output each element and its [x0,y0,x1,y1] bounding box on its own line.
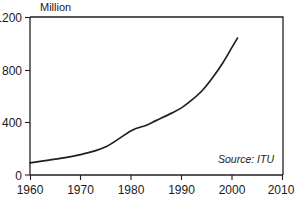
y-tick-label-800: 800 [2,64,22,78]
chart-figure: Million 1200 800 400 0 1960 1970 1980 19… [0,0,295,204]
y-tick-label-0: 0 [15,169,22,183]
x-tick-label-1990: 1990 [168,183,195,197]
x-tick-label-2010: 2010 [268,183,295,197]
x-tick-label-1970: 1970 [67,183,94,197]
source-annotation: Source: ITU [218,153,274,165]
y-tick-label-400: 400 [2,116,22,130]
chart-canvas: Million 1200 800 400 0 1960 1970 1980 19… [0,0,295,204]
x-tick-label-2000: 2000 [219,183,246,197]
y-tick-label-1200: 1200 [0,11,22,25]
x-tick-label-1980: 1980 [118,183,145,197]
x-tick-label-1960: 1960 [17,183,44,197]
y-axis-title: Million [40,1,71,13]
plot-background [30,17,283,175]
